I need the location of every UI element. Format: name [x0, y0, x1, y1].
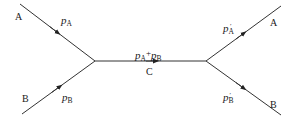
momentum-label-pb: pB: [62, 92, 73, 105]
momentum-label-pa: pA: [61, 15, 72, 28]
momentum-label-pa-prime: pA′: [223, 23, 231, 36]
momentum-label-pb-prime: pB′: [223, 92, 231, 105]
arrow-incoming-a: [50, 27, 58, 33]
node-label-outgoing-b: B: [270, 100, 277, 110]
momentum-label-sum: pA+pB: [135, 49, 162, 63]
node-label-outgoing-a: A: [270, 18, 277, 28]
arrow-outgoing-a: [236, 33, 244, 39]
node-label-incoming-a: A: [15, 12, 22, 22]
node-label-incoming-b: B: [22, 94, 29, 104]
arrow-incoming-b: [52, 86, 60, 92]
node-label-intermediate-c: C: [146, 67, 153, 77]
arrow-outgoing-b: [236, 83, 244, 89]
